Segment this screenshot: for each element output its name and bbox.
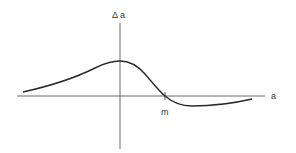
diagram-canvas: Δ a a m <box>0 0 296 153</box>
delta-a-curve <box>23 61 252 106</box>
diagram-figure: Δ a a m <box>0 0 296 153</box>
y-axis-label: Δ a <box>112 10 125 20</box>
x-axis-label: a <box>271 91 276 101</box>
m-label: m <box>161 107 169 117</box>
